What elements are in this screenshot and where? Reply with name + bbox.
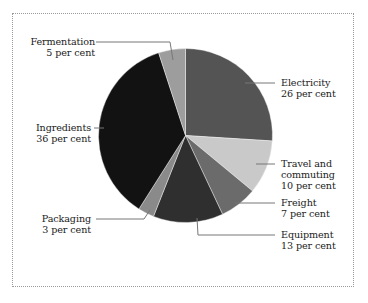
leader-line-packaging — [96, 210, 150, 219]
label-travel-name-2: commuting — [281, 169, 336, 180]
label-travel: Travel and commuting 10 per cent — [281, 158, 336, 191]
label-packaging-name: Packaging — [42, 213, 91, 224]
label-ingredients: Ingredients 36 per cent — [36, 122, 91, 144]
label-freight-name: Freight — [281, 197, 330, 208]
label-packaging-value: 3 per cent — [42, 224, 91, 235]
label-equipment: Equipment 13 per cent — [281, 229, 336, 251]
label-freight-value: 7 per cent — [281, 208, 330, 219]
label-travel-name-1: Travel and — [281, 158, 336, 169]
label-travel-value: 10 per cent — [281, 180, 336, 191]
label-fermentation: Fermentation 5 per cent — [30, 36, 95, 58]
leader-line-equipment — [197, 218, 275, 235]
label-fermentation-name: Fermentation — [30, 36, 95, 47]
label-ingredients-value: 36 per cent — [36, 133, 91, 144]
label-electricity-name: Electricity — [281, 77, 336, 88]
label-electricity: Electricity 26 per cent — [281, 77, 336, 99]
label-electricity-value: 26 per cent — [281, 88, 336, 99]
label-ingredients-name: Ingredients — [36, 122, 91, 133]
label-fermentation-value: 5 per cent — [30, 47, 95, 58]
label-equipment-name: Equipment — [281, 229, 336, 240]
label-equipment-value: 13 per cent — [281, 240, 336, 251]
label-freight: Freight 7 per cent — [281, 197, 330, 219]
pie-slices — [98, 49, 272, 223]
pie-slice-electricity — [186, 49, 273, 141]
label-packaging: Packaging 3 per cent — [42, 213, 91, 235]
